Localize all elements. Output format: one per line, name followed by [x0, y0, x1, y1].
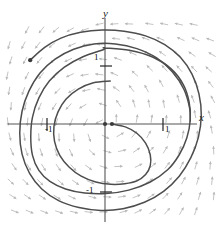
phase-plot-canvas [0, 0, 220, 230]
field-arrow-head [9, 138, 12, 141]
field-arrow-head [9, 108, 12, 111]
field-arrow-head [97, 88, 100, 91]
origin-point [103, 122, 107, 126]
field-arrow-head [179, 115, 182, 118]
y-axis-label: y [103, 8, 108, 19]
field-arrow-head [127, 37, 130, 40]
field-arrow-head [58, 139, 61, 142]
field-arrow-head [5, 77, 8, 80]
field-arrow-head [212, 146, 215, 149]
outer-start-point [28, 58, 32, 62]
field-arrow-head [99, 58, 102, 61]
field-arrow-head [115, 114, 118, 117]
field-arrow-head [112, 37, 115, 40]
field-arrow-head [190, 23, 193, 26]
field-arrow-head [125, 22, 128, 25]
field-arrow-head [175, 22, 178, 25]
x-axis-label: x [199, 112, 204, 123]
inner-start-point [110, 122, 114, 126]
field-arrow-head [209, 161, 212, 164]
field-arrow-head [211, 177, 214, 180]
field-arrow-head [120, 165, 123, 168]
field-arrow-head [109, 195, 112, 198]
field-arrow-head [165, 115, 168, 118]
field-arrow-head [73, 139, 76, 142]
field-arrow-head [24, 108, 27, 111]
field-arrow-head [196, 131, 199, 134]
field-arrow-head [38, 139, 41, 142]
x-tick-label-positive: 1 [165, 125, 170, 134]
marker-points [28, 58, 114, 126]
field-arrow-head [75, 211, 78, 214]
field-arrow-head [96, 23, 99, 26]
x-tick-label-negative: -1 [45, 125, 53, 134]
direction-field-arrows [5, 22, 215, 215]
y-tick-label-positive: 1 [94, 53, 99, 62]
field-arrow-head [110, 23, 113, 26]
trajectory-inner-trajectory [54, 81, 151, 184]
y-tick-label-negative: -1 [86, 186, 94, 195]
field-arrow-head [122, 180, 125, 183]
field-arrow-head [212, 192, 215, 195]
field-arrow-head [125, 210, 128, 213]
phase-portrait-figure: y x 1 -1 -1 1 [0, 0, 220, 230]
field-arrow-head [123, 149, 126, 152]
field-arrow-head [94, 196, 97, 199]
